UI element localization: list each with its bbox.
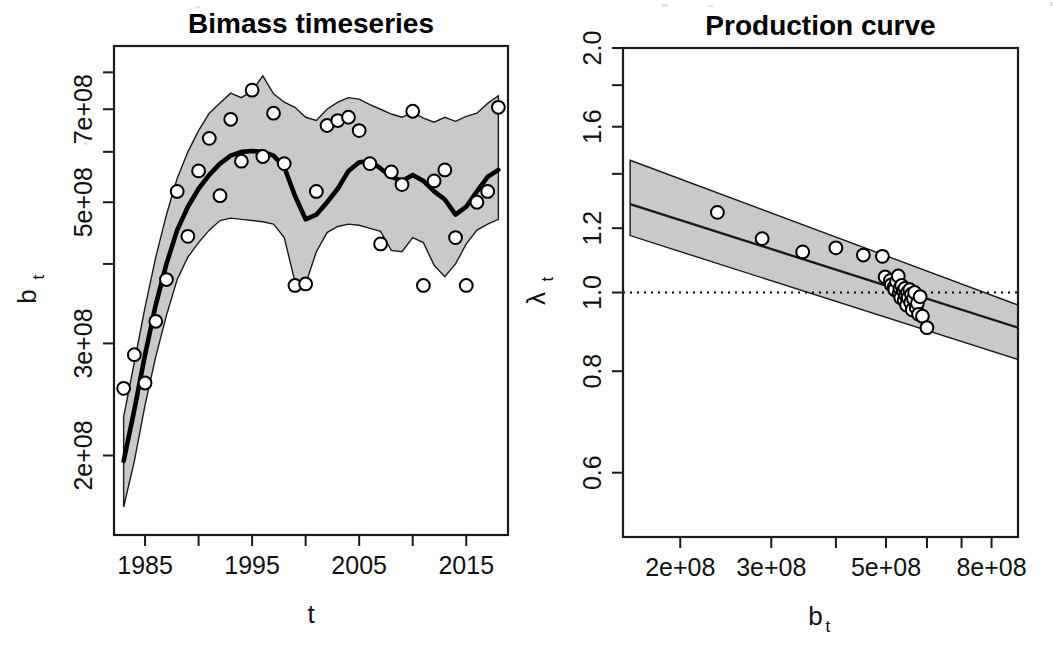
data-point — [796, 246, 809, 259]
x-axis-title-base: t — [307, 599, 315, 629]
data-point — [256, 150, 269, 163]
y-tick-label: 2e+08 — [69, 420, 97, 490]
y-axis-title-base: b — [12, 289, 42, 303]
x-tick-label: 2005 — [331, 551, 387, 579]
x-tick-label: 5e+08 — [851, 553, 921, 581]
credible-interval-ribbon — [630, 160, 1018, 359]
y-axis: 0.60.81.01.21.62.0 — [578, 31, 623, 490]
y-tick-label: 1.2 — [578, 211, 606, 246]
y-tick-label: 3e+08 — [69, 308, 97, 378]
panel-production: 2e+083e+085e+088e+080.60.81.01.21.62.0Pr… — [521, 10, 1027, 636]
x-axis-title-subscript: t — [826, 617, 831, 636]
data-point — [139, 377, 152, 390]
y-tick-label: 0.6 — [578, 455, 606, 490]
data-point — [481, 185, 494, 198]
data-point — [460, 279, 473, 292]
scan-speck — [708, 5, 713, 7]
data-point — [428, 175, 441, 188]
y-tick-label: 1.0 — [578, 275, 606, 310]
fitted-production-line — [630, 204, 1018, 328]
data-point — [224, 113, 237, 126]
y-tick-label: 1.6 — [578, 109, 606, 144]
y-axis: 2e+083e+085e+087e+08 — [69, 72, 114, 490]
data-point — [876, 250, 889, 263]
panel-title: Production curve — [705, 10, 935, 41]
x-axis: 1985199520052015 — [117, 535, 494, 579]
data-point — [756, 232, 769, 245]
two-panel-figure: 19851995200520152e+083e+085e+087e+08Bima… — [0, 0, 1053, 651]
y-axis-title: λt — [521, 277, 557, 306]
x-tick-label: 2015 — [438, 551, 494, 579]
data-point — [406, 105, 419, 118]
data-point — [310, 185, 323, 198]
data-point — [278, 157, 291, 170]
data-point — [438, 164, 451, 177]
data-point — [235, 155, 248, 168]
data-point — [267, 107, 280, 120]
scan-speck — [196, 6, 200, 8]
data-point — [342, 111, 355, 124]
data-point — [385, 166, 398, 179]
y-axis-title-subscript: t — [29, 275, 48, 280]
data-point — [374, 238, 387, 251]
credible-interval-ribbon — [124, 76, 499, 507]
x-tick-label: 1995 — [224, 551, 280, 579]
data-point — [711, 206, 724, 219]
data-point — [192, 165, 205, 178]
scan-speck — [84, 142, 87, 145]
panel-title: Bimass timeseries — [188, 8, 434, 39]
y-tick-label: 0.8 — [578, 354, 606, 389]
data-point — [829, 241, 842, 254]
data-point — [449, 231, 462, 244]
data-point — [921, 321, 934, 334]
data-point — [492, 101, 505, 114]
panel-biomass: 19851995200520152e+083e+085e+087e+08Bima… — [12, 8, 508, 629]
x-axis-title: t — [307, 599, 315, 629]
y-axis-title-base: λ — [521, 292, 551, 305]
data-point — [299, 278, 312, 291]
data-point — [203, 132, 216, 145]
data-point — [160, 273, 173, 286]
data-point — [363, 157, 376, 170]
scan-speck — [662, 4, 668, 7]
data-point — [181, 230, 194, 243]
x-axis-title: bt — [808, 601, 830, 636]
data-point — [914, 290, 927, 303]
x-axis: 2e+083e+085e+088e+08 — [645, 537, 1027, 581]
data-point — [214, 189, 227, 202]
x-tick-label: 3e+08 — [736, 553, 806, 581]
data-point — [396, 178, 409, 191]
data-point — [149, 315, 162, 328]
y-axis-title: bt — [12, 275, 48, 304]
y-tick-label: 7e+08 — [69, 74, 97, 144]
y-axis-title-subscript: t — [538, 277, 557, 282]
x-tick-label: 8e+08 — [956, 553, 1026, 581]
data-point — [171, 185, 184, 198]
data-point — [471, 196, 484, 209]
data-point — [353, 124, 366, 137]
figure-container: 19851995200520152e+083e+085e+087e+08Bima… — [0, 0, 1053, 651]
x-tick-label: 1985 — [117, 551, 173, 579]
data-point — [417, 279, 430, 292]
data-point — [246, 84, 259, 97]
data-point — [857, 249, 870, 262]
y-tick-label: 2.0 — [578, 31, 606, 66]
x-tick-label: 2e+08 — [645, 553, 715, 581]
data-point — [117, 382, 130, 395]
y-tick-label: 5e+08 — [69, 167, 97, 237]
x-axis-title-base: b — [808, 601, 822, 631]
data-point — [128, 348, 141, 361]
